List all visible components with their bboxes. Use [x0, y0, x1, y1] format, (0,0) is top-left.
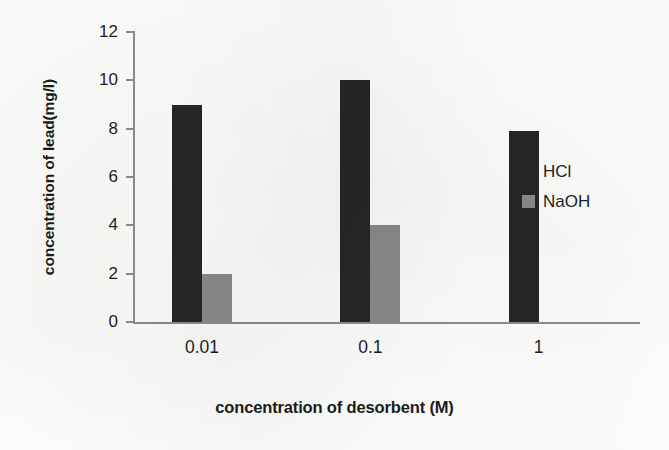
- y-axis-tick-label: 6: [78, 168, 118, 185]
- y-axis-tick-label: 2: [78, 265, 118, 282]
- x-axis-category-label: 1: [479, 337, 599, 358]
- legend-item-naoh: NaOH: [522, 186, 590, 216]
- legend-item-hcl: HCl: [522, 156, 590, 186]
- bar-hcl-0.1: [340, 80, 370, 322]
- legend-label: NaOH: [543, 193, 590, 210]
- bar-chart-figure: concentration of lead(mg/l) 121086420 0.…: [0, 0, 669, 450]
- bar-naoh-0.01: [202, 274, 232, 322]
- y-axis-tick-mark: [126, 273, 134, 275]
- y-axis-tick-label: 10: [78, 71, 118, 88]
- y-axis-tick-mark: [126, 321, 134, 323]
- bar-naoh-0.1: [370, 225, 400, 322]
- y-axis-tick-label: 4: [78, 216, 118, 233]
- bar-hcl-0.01: [172, 105, 202, 323]
- x-axis-category-label: 0.1: [310, 337, 430, 358]
- x-axis-line: [133, 322, 640, 324]
- x-axis-title: concentration of desorbent (M): [0, 398, 669, 417]
- y-axis-tick-mark: [126, 79, 134, 81]
- chart-legend: HClNaOH: [522, 156, 590, 216]
- y-axis-tick-mark: [126, 224, 134, 226]
- y-axis-tick-label: 12: [78, 23, 118, 40]
- y-axis-tick-labels: 121086420: [78, 0, 118, 450]
- y-axis-title: concentration of lead(mg/l): [40, 27, 58, 327]
- x-axis-category-label: 0.01: [142, 337, 262, 358]
- legend-label: HCl: [543, 163, 571, 180]
- y-axis-tick-mark: [126, 176, 134, 178]
- y-axis-tick-label: 0: [78, 313, 118, 330]
- legend-swatch-icon: [522, 195, 535, 208]
- y-axis-tick-label: 8: [78, 120, 118, 137]
- y-axis-tick-mark: [126, 128, 134, 130]
- legend-swatch-icon: [522, 165, 535, 178]
- y-axis-tick-mark: [126, 31, 134, 33]
